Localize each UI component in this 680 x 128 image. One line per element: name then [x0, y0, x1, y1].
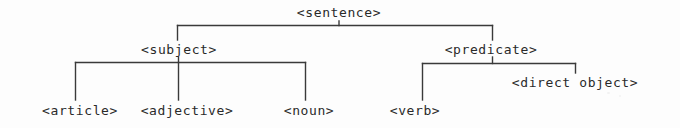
node-subject: <subject>: [141, 43, 217, 57]
node-direct-object: <direct object>: [512, 76, 638, 90]
node-verb: <verb>: [390, 104, 441, 118]
node-noun: <noun>: [284, 104, 335, 118]
node-adjective: <adjective>: [141, 104, 234, 118]
node-predicate: <predicate>: [445, 43, 538, 57]
parse-tree-figure: <sentence> <subject> <predicate> <direct…: [0, 0, 680, 128]
node-sentence: <sentence>: [297, 6, 381, 20]
node-article: <article>: [42, 104, 118, 118]
